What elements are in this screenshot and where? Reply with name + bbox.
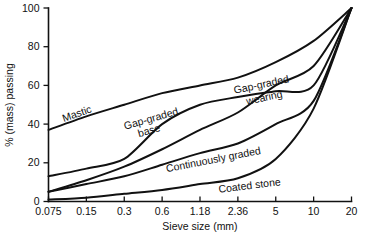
x-tick-label: 1.18 (190, 205, 211, 217)
x-tick-label: 2.36 (228, 205, 249, 217)
y-axis-ticks: 020406080100 (22, 2, 49, 208)
curve-gap-graded-base (49, 8, 352, 176)
y-tick-label: 80 (28, 40, 40, 52)
curve-label-coated-stone: Coated stone (218, 175, 282, 195)
x-tick-label: 0.15 (76, 205, 97, 217)
sieve-grading-chart: 020406080100 0.0750.150.30.61.182.365102… (0, 0, 373, 248)
curve-label-continuously-graded: Continuously graded (165, 144, 262, 174)
y-tick-label: 20 (28, 156, 40, 168)
y-tick-label: 60 (28, 79, 40, 91)
curves-group (49, 8, 352, 200)
curve-mastic (49, 8, 352, 130)
y-tick-label: 100 (22, 2, 40, 14)
y-tick-label: 40 (28, 118, 40, 130)
x-tick-label: 0.3 (117, 205, 132, 217)
x-tick-label: 0.075 (35, 205, 61, 217)
x-tick-label: 10 (308, 205, 320, 217)
x-tick-label: 5 (273, 205, 279, 217)
x-axis-ticks: 0.0750.150.30.61.182.3651020 (35, 197, 357, 218)
y-axis-title: % (mass) passing (3, 63, 15, 147)
chart-container: 020406080100 0.0750.150.30.61.182.365102… (0, 0, 373, 248)
x-tick-label: 0.6 (155, 205, 170, 217)
x-tick-label: 20 (346, 205, 358, 217)
x-axis-title: Sieve size (mm) (162, 220, 237, 232)
